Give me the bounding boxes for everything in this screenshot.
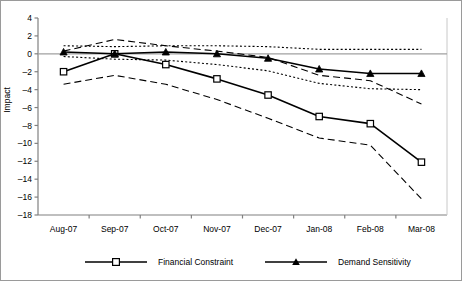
marker-open-square [265,92,271,98]
x-tick-label: Jan-08 [306,224,332,234]
y-tick-label: 4 [27,13,32,23]
y-tick-label: 0 [27,49,32,59]
x-tick-label: Aug-07 [50,224,78,234]
series-line-0 [64,54,422,162]
x-tick-label: Mar-08 [408,224,435,234]
y-tick-label: –2 [23,67,33,77]
y-tick-label: 2 [27,31,32,41]
y-tick-label: –4 [23,85,33,95]
marker-open-square [418,159,424,165]
x-tick-label: Dec-07 [254,224,282,234]
y-tick-label: –10 [18,138,32,148]
y-tick-label: –12 [18,156,32,166]
legend-label-1: Demand Sensitivity [338,257,412,267]
marker-open-square [163,61,169,67]
series-line-4 [64,46,422,50]
y-tick-label: –6 [23,103,33,113]
legend-label-0: Financial Constraint [158,257,234,267]
y-tick-label: –8 [23,121,33,131]
x-tick-label: Nov-07 [203,224,231,234]
y-tick-label: –16 [18,192,32,202]
marker-open-square [316,113,322,119]
legend-marker-open-square [113,259,120,266]
y-tick-label: –18 [18,210,32,220]
chart-container: Impact 420–2–4–6–8–10–12–14–16–18Aug-07S… [0,0,463,282]
series-line-3 [64,75,422,199]
line-chart-plot: 420–2–4–6–8–10–12–14–16–18Aug-07Sep-07Oc… [0,0,463,282]
marker-open-square [214,76,220,82]
marker-open-square [367,120,373,126]
x-tick-label: Sep-07 [101,224,129,234]
x-tick-label: Feb-08 [357,224,384,234]
x-tick-label: Oct-07 [153,224,179,234]
marker-open-square [60,69,66,75]
y-tick-label: –14 [18,174,32,184]
